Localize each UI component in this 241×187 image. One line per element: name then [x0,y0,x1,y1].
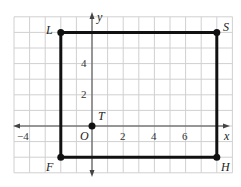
y-tick-4: 4 [81,57,87,69]
x-tick-2: 2 [120,130,126,142]
coordinate-grid-diagram: x y O −4 2 4 6 2 4 L S H F T [0,0,241,187]
point-label-H: H [220,160,231,174]
point-label-F: F [45,160,54,174]
point-T [89,123,96,130]
y-axis-arrow-up-icon [90,12,95,19]
x-tick-6: 6 [182,130,188,142]
point-L [57,29,64,36]
point-H [213,154,220,161]
x-axis-arrow-right-icon [223,124,230,129]
y-axis-label: y [96,10,103,24]
x-tick-neg4: −4 [17,130,29,142]
point-label-T: T [98,109,106,123]
x-tick-4: 4 [151,130,157,142]
point-label-L: L [45,23,53,37]
grid-lines [14,17,232,173]
y-tick-2: 2 [81,88,87,100]
y-axis-arrow-down-icon [90,170,95,177]
point-label-S: S [223,20,229,34]
point-F [57,154,64,161]
origin-label: O [80,129,89,143]
x-axis-label: x [223,129,230,143]
point-S [213,29,220,36]
